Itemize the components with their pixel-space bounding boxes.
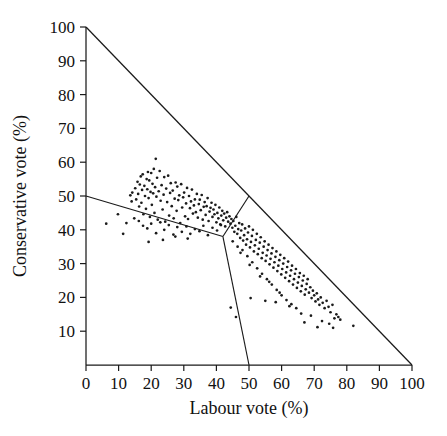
data-point xyxy=(138,205,141,208)
data-point xyxy=(306,278,309,281)
data-point xyxy=(289,274,292,277)
data-point xyxy=(171,189,174,192)
data-point xyxy=(223,212,226,215)
data-point xyxy=(303,321,306,324)
data-point xyxy=(310,297,313,300)
data-point xyxy=(299,272,302,275)
data-point xyxy=(197,203,200,206)
data-point xyxy=(290,303,293,306)
data-point xyxy=(165,187,168,190)
data-point xyxy=(250,241,253,244)
data-point xyxy=(181,206,184,209)
data-point xyxy=(233,230,236,233)
data-point xyxy=(192,212,195,215)
data-point xyxy=(288,280,291,283)
data-point xyxy=(216,212,219,215)
data-point xyxy=(172,217,175,220)
data-point xyxy=(281,268,284,271)
data-point xyxy=(325,299,328,302)
data-point xyxy=(151,182,154,185)
data-point xyxy=(231,240,234,243)
data-point xyxy=(234,224,237,227)
data-point xyxy=(246,255,249,258)
data-point xyxy=(198,198,201,201)
data-point xyxy=(167,224,170,227)
data-point xyxy=(172,233,175,236)
data-point xyxy=(213,213,216,216)
y-tick-label: 100 xyxy=(50,18,76,37)
data-point xyxy=(141,189,144,192)
data-point xyxy=(296,287,299,290)
data-point xyxy=(314,300,317,303)
data-point xyxy=(156,218,159,221)
y-tick-label: 30 xyxy=(58,255,75,274)
data-point xyxy=(237,228,240,231)
data-point xyxy=(251,261,254,264)
data-point xyxy=(173,197,176,200)
data-point xyxy=(260,257,263,260)
data-point xyxy=(211,226,214,229)
data-point xyxy=(300,312,303,315)
data-point xyxy=(195,193,198,196)
data-point xyxy=(263,240,266,243)
data-point xyxy=(174,235,177,238)
data-point xyxy=(294,272,297,275)
data-point xyxy=(208,210,211,213)
y-tick-label: 80 xyxy=(58,86,75,105)
data-point xyxy=(230,218,233,221)
data-point xyxy=(310,314,313,317)
data-point xyxy=(137,220,140,223)
data-point xyxy=(278,291,281,294)
data-point xyxy=(134,187,137,190)
y-axis-title: Conservative vote (%) xyxy=(10,115,31,277)
data-point xyxy=(206,197,209,200)
data-point xyxy=(176,185,179,188)
data-point xyxy=(241,223,244,226)
data-point xyxy=(247,231,250,234)
data-point xyxy=(221,210,224,213)
data-point xyxy=(186,237,189,240)
data-point xyxy=(302,274,305,277)
data-point xyxy=(301,279,304,282)
x-tick-label: 40 xyxy=(208,374,225,393)
data-point xyxy=(189,233,192,236)
data-point xyxy=(309,286,312,289)
data-point xyxy=(149,191,152,194)
data-point xyxy=(259,275,262,278)
data-point xyxy=(191,188,194,191)
data-point xyxy=(317,298,320,301)
data-point xyxy=(160,184,163,187)
data-point xyxy=(184,215,187,218)
data-point xyxy=(195,211,198,214)
data-point xyxy=(305,283,308,286)
data-point xyxy=(194,198,197,201)
data-point xyxy=(164,220,167,223)
data-point xyxy=(142,224,145,227)
data-point xyxy=(303,293,306,296)
data-point xyxy=(258,241,261,244)
data-point xyxy=(180,183,183,186)
data-point xyxy=(264,299,267,302)
data-point xyxy=(140,201,143,204)
data-point xyxy=(146,188,149,191)
data-point xyxy=(226,211,229,214)
x-tick-label: 30 xyxy=(175,374,192,393)
data-point xyxy=(147,241,150,244)
data-point xyxy=(254,244,257,247)
data-point xyxy=(227,220,230,223)
data-point xyxy=(210,201,213,204)
data-point xyxy=(242,239,245,242)
data-point xyxy=(266,278,269,281)
data-point xyxy=(327,306,330,309)
data-point xyxy=(150,172,153,175)
x-tick-label: 100 xyxy=(399,374,425,393)
data-point xyxy=(169,182,172,185)
data-point xyxy=(167,174,170,177)
data-point xyxy=(286,266,289,269)
data-point xyxy=(202,205,205,208)
data-point xyxy=(278,259,281,262)
data-point xyxy=(265,254,268,257)
data-point xyxy=(241,249,244,252)
data-point xyxy=(163,228,166,231)
data-point xyxy=(231,226,234,229)
